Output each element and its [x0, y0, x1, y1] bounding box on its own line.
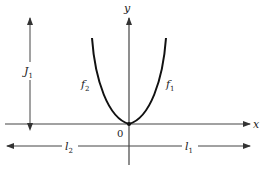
curve-f2-label: f2 [80, 78, 90, 93]
diagram-canvas: x y 0 f2 f1 J1 l2 l1 [0, 0, 261, 172]
curve-f1-label: f1 [165, 78, 175, 93]
curve-f1 [129, 38, 166, 124]
y-axis-label: y [123, 2, 131, 15]
x-axis-label: x [253, 118, 260, 131]
curve-f2 [92, 38, 129, 124]
origin-label: 0 [117, 128, 123, 139]
